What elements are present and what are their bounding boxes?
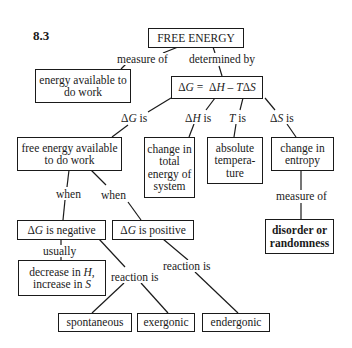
node-energy-available: energy available to do work xyxy=(35,69,131,103)
node-disorder: disorder or randomness xyxy=(265,219,334,254)
concept-map: 8.3 FREE ENERGY energy available to do w… xyxy=(0,0,352,348)
link-ds-is: ΔS is xyxy=(269,112,295,124)
link-dh-is: ΔH is xyxy=(184,112,212,124)
node-free-energy: FREE ENERGY xyxy=(148,28,244,48)
node-spontaneous: spontaneous xyxy=(58,313,132,332)
node-free-energy-available: free energy available to do work xyxy=(17,137,122,171)
node-endergonic: endergonic xyxy=(202,313,270,332)
node-decrease-increase: decrease in H,increase in S xyxy=(18,260,106,296)
link-dg-is: ΔG is xyxy=(120,112,148,124)
link-when-positive: when xyxy=(100,189,127,201)
node-absolute-temperature: absolutetempera-ture xyxy=(207,137,263,184)
node-dg-negative: ΔG is negative xyxy=(17,220,106,240)
link-determined-by: determined by xyxy=(188,53,256,65)
link-t-is: T is xyxy=(228,112,247,124)
link-reaction-is-positive: reaction is xyxy=(162,260,212,272)
link-when-negative: when xyxy=(55,188,82,200)
node-change-total-energy: change in total energy of system xyxy=(144,137,195,198)
figure-number: 8.3 xyxy=(33,28,49,44)
link-measure-of-entropy: measure of xyxy=(275,190,328,202)
link-measure-of: measure of xyxy=(116,53,169,65)
node-change-entropy: change in entropy xyxy=(271,137,334,171)
node-dg-positive: ΔG is positive xyxy=(112,220,194,240)
node-exergonic: exergonic xyxy=(137,313,195,332)
link-usually: usually xyxy=(42,245,77,257)
node-equation: ΔG = ΔH – TΔS xyxy=(171,76,263,99)
link-reaction-is-negative: reaction is xyxy=(110,271,160,283)
